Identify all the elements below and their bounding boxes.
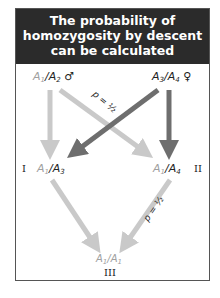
arrow-I-to-III [52, 180, 95, 245]
offspring-I-label: I [22, 163, 26, 174]
probability-label-2: p = ½ [141, 194, 166, 223]
offspring-II-label: II [194, 163, 202, 174]
probability-label-1: p = ½ [90, 88, 119, 114]
offspring-I-genotype: A1/A3 [37, 162, 65, 176]
male-parent-genotype: A1/A2 ♂ [33, 70, 74, 84]
offspring-III-label: III [104, 267, 116, 278]
arrow-female-to-I [75, 90, 158, 152]
female-parent-genotype: A3/A4 ♀ [152, 70, 191, 84]
offspring-III-genotype: A1/A1 [96, 253, 122, 266]
male-symbol-icon: ♂ [64, 70, 74, 83]
offspring-II-genotype: A1/A4 [153, 162, 181, 176]
female-symbol-icon: ♀ [183, 70, 191, 83]
